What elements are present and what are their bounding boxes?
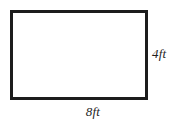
height-dimension-text: 4ft [152, 46, 166, 61]
rectangle-figure: 4ft 8ft [0, 0, 185, 126]
height-dimension-label: 4ft [152, 47, 166, 60]
rectangle-shape [10, 10, 148, 100]
width-dimension-text: 8ft [86, 105, 100, 118]
width-dimension-label: 8ft [0, 105, 185, 118]
